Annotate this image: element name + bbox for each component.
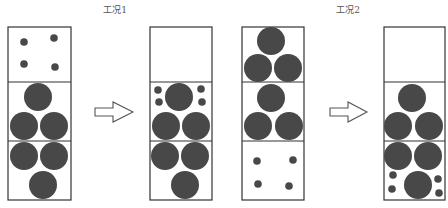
small-particle (289, 156, 297, 164)
case-1-after-column (150, 27, 212, 200)
small-particle (388, 185, 396, 193)
large-particle (404, 171, 432, 199)
small-particle (198, 98, 206, 106)
large-particle (40, 112, 68, 140)
small-particle (155, 98, 163, 106)
case-1-title: 工况1 (103, 5, 127, 15)
case-1-before-column (8, 27, 71, 200)
small-particle (285, 182, 293, 190)
large-particle (10, 142, 38, 170)
large-particle (152, 112, 180, 140)
large-particle (151, 142, 179, 170)
large-particle (275, 112, 303, 140)
large-particle (414, 142, 442, 170)
small-particle (20, 60, 28, 68)
large-particle (257, 84, 285, 112)
large-particle (24, 83, 52, 111)
large-particle (384, 112, 412, 140)
small-particle (50, 34, 58, 42)
case-2-after-column (384, 27, 445, 200)
case-2-title: 工况2 (336, 5, 360, 15)
large-particle (182, 112, 210, 140)
right-arrow-icon (330, 102, 367, 122)
large-particle (10, 112, 38, 140)
large-particle (257, 27, 285, 55)
large-particle (165, 83, 193, 111)
large-particle (29, 171, 57, 199)
small-particle (20, 38, 28, 46)
large-particle (171, 171, 199, 199)
small-particle (253, 157, 261, 165)
small-particle (51, 63, 59, 71)
small-particle (435, 189, 443, 197)
small-particle (254, 180, 262, 188)
large-particle (384, 142, 412, 170)
large-particle (244, 54, 272, 82)
small-particle (197, 85, 205, 93)
large-particle (40, 142, 68, 170)
small-particle (154, 86, 162, 94)
large-particle (415, 112, 443, 140)
small-particle (434, 175, 442, 183)
case-2-before-column (242, 27, 304, 200)
particle-migration-diagram: 工况1 工况2 (0, 0, 448, 208)
large-particle (244, 112, 272, 140)
small-particle (389, 171, 397, 179)
right-arrow-icon (95, 102, 133, 122)
large-particle (398, 84, 426, 112)
large-particle (181, 142, 209, 170)
large-particle (274, 54, 302, 82)
